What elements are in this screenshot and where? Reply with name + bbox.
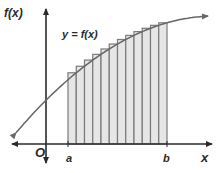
lower-bound-label: a bbox=[66, 152, 72, 164]
origin-label: O bbox=[35, 145, 45, 160]
riemann-rectangle bbox=[126, 35, 134, 144]
riemann-rectangle bbox=[142, 28, 150, 144]
riemann-rectangle bbox=[85, 60, 93, 144]
riemann-rectangle bbox=[134, 32, 142, 144]
riemann-rectangle bbox=[159, 23, 167, 144]
riemann-rectangle bbox=[76, 66, 84, 144]
curve-label: y = f(x) bbox=[61, 28, 98, 40]
upper-bound-label: b bbox=[163, 152, 170, 164]
x-axis-label: x bbox=[200, 150, 209, 165]
riemann-rectangle bbox=[101, 49, 109, 144]
riemann-rectangle bbox=[109, 44, 117, 144]
riemann-rectangle bbox=[93, 54, 101, 144]
riemann-sum-diagram: f(x) y = f(x) O a b x bbox=[0, 0, 224, 173]
riemann-rectangle bbox=[151, 25, 159, 144]
riemann-rectangle bbox=[118, 40, 126, 145]
riemann-rectangles bbox=[68, 23, 167, 144]
y-axis-label: f(x) bbox=[4, 6, 23, 20]
riemann-rectangle bbox=[68, 73, 76, 144]
